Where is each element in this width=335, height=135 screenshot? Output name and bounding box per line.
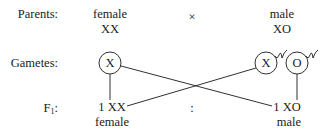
sperm-tail-x-icon <box>275 50 287 58</box>
offspring-right-sex: male <box>277 115 301 129</box>
offspring-left-sex: female <box>95 115 129 129</box>
offspring-right-genotype: 1 XO <box>272 100 301 114</box>
offspring-left-genotype: 1 XX <box>97 100 126 114</box>
male-gamete-x-label: X <box>261 56 270 70</box>
line-female-x-to-xo <box>121 66 272 106</box>
male-gamete-o-label: O <box>292 56 301 70</box>
female-gamete-x-label: X <box>105 56 114 70</box>
ratio-separator: : <box>190 101 193 115</box>
sperm-tail-o-icon <box>306 50 318 58</box>
